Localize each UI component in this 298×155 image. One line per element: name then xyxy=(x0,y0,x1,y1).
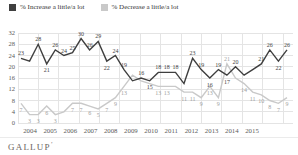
svg-text:7: 7 xyxy=(20,107,23,113)
svg-text:2006: 2006 xyxy=(64,127,78,134)
svg-text:24: 24 xyxy=(61,48,67,54)
svg-text:7: 7 xyxy=(80,107,83,113)
svg-text:22: 22 xyxy=(104,65,110,71)
svg-text:23: 23 xyxy=(18,50,24,56)
svg-text:4: 4 xyxy=(12,108,16,115)
gallup-logo-text: GALLUP xyxy=(8,142,51,152)
svg-text:18: 18 xyxy=(172,64,178,70)
svg-text:19: 19 xyxy=(121,62,127,68)
svg-text:9: 9 xyxy=(114,101,117,107)
svg-text:6: 6 xyxy=(88,110,91,116)
svg-text:16: 16 xyxy=(9,74,16,81)
svg-text:29: 29 xyxy=(95,33,101,39)
svg-text:2011: 2011 xyxy=(165,127,178,134)
svg-text:10: 10 xyxy=(258,98,264,104)
svg-text:7: 7 xyxy=(71,107,74,113)
svg-text:11: 11 xyxy=(181,96,187,102)
svg-text:21: 21 xyxy=(258,56,264,62)
svg-text:28: 28 xyxy=(35,36,41,42)
svg-text:26: 26 xyxy=(87,42,93,48)
svg-text:20: 20 xyxy=(9,63,16,70)
svg-text:7: 7 xyxy=(277,107,280,113)
svg-text:9: 9 xyxy=(217,101,220,107)
svg-text:17: 17 xyxy=(224,79,230,85)
svg-text:18: 18 xyxy=(164,64,170,70)
svg-text:13: 13 xyxy=(164,90,170,96)
svg-text:13: 13 xyxy=(121,90,127,96)
svg-text:6: 6 xyxy=(45,110,48,116)
svg-text:21: 21 xyxy=(224,56,230,62)
svg-text:32: 32 xyxy=(9,29,16,36)
svg-text:30: 30 xyxy=(78,31,84,37)
svg-text:13: 13 xyxy=(155,90,161,96)
svg-text:23: 23 xyxy=(190,50,196,56)
svg-text:26: 26 xyxy=(267,42,273,48)
svg-text:8: 8 xyxy=(12,97,15,104)
svg-text:3: 3 xyxy=(37,118,40,124)
svg-text:2005: 2005 xyxy=(43,127,57,134)
line-chart-canvas: 0481216202428322004200520062007200820092… xyxy=(0,0,298,155)
svg-text:2015: 2015 xyxy=(245,127,259,134)
svg-text:2004: 2004 xyxy=(23,127,37,134)
svg-text:2013: 2013 xyxy=(205,127,219,134)
svg-text:13: 13 xyxy=(207,90,213,96)
svg-text:3: 3 xyxy=(54,118,57,124)
svg-text:24: 24 xyxy=(112,48,118,54)
svg-text:2014: 2014 xyxy=(225,127,239,134)
gallup-trend-chart: % Increase a little/a lot % Decrease a l… xyxy=(0,0,298,155)
svg-text:16: 16 xyxy=(207,82,213,88)
svg-text:0: 0 xyxy=(12,119,15,126)
svg-text:2009: 2009 xyxy=(124,127,138,134)
svg-text:11: 11 xyxy=(190,96,196,102)
svg-text:25: 25 xyxy=(69,45,75,51)
svg-text:19: 19 xyxy=(198,62,204,68)
svg-text:21: 21 xyxy=(44,67,50,73)
svg-text:26: 26 xyxy=(52,42,58,48)
svg-text:24: 24 xyxy=(9,52,16,59)
gallup-logo-mark: ’ xyxy=(51,141,53,147)
svg-text:22: 22 xyxy=(275,65,281,71)
svg-text:18: 18 xyxy=(155,64,161,70)
svg-text:7: 7 xyxy=(105,107,108,113)
svg-text:2012: 2012 xyxy=(185,127,199,134)
svg-text:16: 16 xyxy=(138,70,144,76)
svg-text:2010: 2010 xyxy=(144,127,158,134)
svg-text:28: 28 xyxy=(9,40,16,47)
svg-text:5: 5 xyxy=(97,112,100,118)
svg-text:9: 9 xyxy=(200,101,203,107)
footer-divider xyxy=(0,137,298,138)
svg-text:2007: 2007 xyxy=(84,127,98,134)
svg-text:9: 9 xyxy=(286,101,289,107)
svg-text:15: 15 xyxy=(147,84,153,90)
svg-text:14: 14 xyxy=(241,87,247,93)
svg-text:8: 8 xyxy=(268,104,271,110)
svg-text:19: 19 xyxy=(215,62,221,68)
svg-text:26: 26 xyxy=(284,42,290,48)
svg-text:20: 20 xyxy=(233,59,239,65)
svg-text:2008: 2008 xyxy=(104,127,118,134)
svg-text:3: 3 xyxy=(28,118,31,124)
svg-text:12: 12 xyxy=(9,85,16,92)
gallup-logo: GALLUP’ xyxy=(8,141,53,152)
svg-text:11: 11 xyxy=(250,96,256,102)
